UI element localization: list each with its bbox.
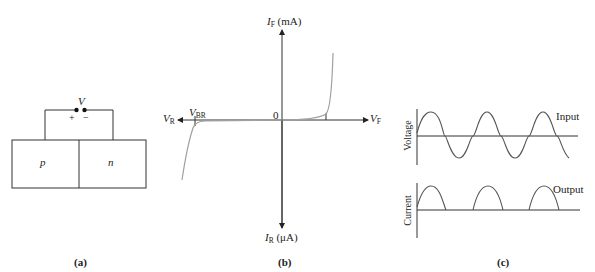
vbr-symbol: V bbox=[189, 106, 196, 118]
rectifier-waveforms bbox=[417, 109, 580, 238]
forward-curve bbox=[282, 53, 333, 120]
vf-subscript: F bbox=[377, 117, 381, 126]
p-region-label: p bbox=[40, 157, 46, 168]
input-legend: Input bbox=[556, 111, 579, 122]
plus-sign: + bbox=[69, 113, 75, 123]
output-half-wave-2 bbox=[473, 186, 503, 210]
reverse-curve bbox=[182, 120, 282, 180]
origin-label: 0 bbox=[273, 110, 279, 121]
n-region-label: n bbox=[108, 157, 114, 168]
iv-characteristic bbox=[178, 30, 368, 228]
pn-junction bbox=[12, 108, 146, 188]
vbr-subscript: BR bbox=[196, 111, 206, 120]
reverse-current-axis-label: IR (μA) bbox=[265, 232, 298, 245]
wire-right bbox=[85, 110, 113, 140]
input-sine-wave bbox=[417, 112, 569, 158]
reverse-voltage-axis-label: VR bbox=[163, 113, 175, 126]
output-half-wave-1 bbox=[417, 186, 446, 210]
caption-c: (c) bbox=[497, 256, 509, 268]
vf-symbol: V bbox=[370, 112, 377, 124]
breakdown-voltage-label: VBR bbox=[189, 107, 206, 120]
vr-subscript: R bbox=[170, 117, 175, 126]
forward-voltage-axis-label: VF bbox=[370, 113, 381, 126]
voltage-axis-label: Voltage bbox=[402, 116, 413, 156]
minus-sign: − bbox=[83, 113, 89, 123]
applied-voltage-label: V bbox=[78, 96, 85, 107]
caption-b: (b) bbox=[278, 256, 291, 268]
output-legend: Output bbox=[553, 184, 584, 195]
if-unit: (mA) bbox=[275, 15, 302, 27]
ir-unit: (μA) bbox=[274, 231, 298, 243]
vr-symbol: V bbox=[163, 112, 170, 124]
current-axis-label: Current bbox=[402, 191, 413, 231]
caption-a: (a) bbox=[74, 256, 87, 268]
forward-current-axis-label: IF (mA) bbox=[267, 16, 301, 29]
